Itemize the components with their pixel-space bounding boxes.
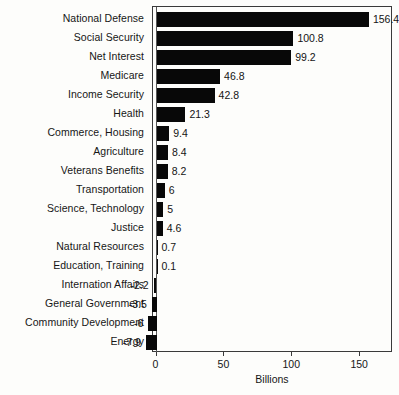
bar-row: 8.4: [153, 143, 391, 162]
bar: [157, 202, 164, 217]
bar: [157, 69, 221, 84]
category-label: Net Interest: [89, 47, 144, 66]
bar-row: 0.7: [153, 238, 391, 257]
bar-row: -6: [153, 314, 391, 333]
category-label: Justice: [111, 218, 144, 237]
category-label: Natural Resources: [56, 237, 144, 256]
category-label: Veterans Benefits: [61, 161, 144, 180]
bar-value-label: 100.8: [297, 31, 323, 46]
category-label: Income Security: [68, 85, 144, 104]
bar-row: 21.3: [153, 105, 391, 124]
bar-row: 100.8: [153, 29, 391, 48]
bar-value-label: 4.6: [167, 221, 182, 236]
bar-value-label: -6: [134, 316, 143, 331]
bar-value-label: 0.1: [161, 259, 176, 274]
bar: [157, 12, 369, 27]
category-label: Social Security: [74, 28, 144, 47]
x-tick-label: 50: [218, 358, 230, 370]
x-tick-label: 0: [153, 358, 159, 370]
bar-value-label: 156.4: [373, 12, 399, 27]
bar-value-label: 0.7: [161, 240, 176, 255]
bar-row: 4.6: [153, 219, 391, 238]
bar-chart: National DefenseSocial SecurityNet Inter…: [0, 0, 399, 395]
bar-value-label: 46.8: [224, 69, 244, 84]
bar: [157, 259, 158, 274]
bar: [157, 221, 163, 236]
x-tick-mark: [156, 352, 157, 356]
bar-value-label: 8.2: [172, 164, 187, 179]
bar-row: 156.4: [153, 10, 391, 29]
bar: [146, 335, 157, 350]
category-label: Education, Training: [53, 256, 144, 275]
bar: [157, 107, 186, 122]
category-label: Community Development: [25, 313, 144, 332]
bar: [148, 316, 156, 331]
bar: [157, 240, 158, 255]
bar-row: 0.1: [153, 257, 391, 276]
bar-value-label: -2.2: [130, 278, 148, 293]
bar-value-label: 21.3: [189, 107, 209, 122]
plot-frame: 156.4100.899.246.842.821.39.48.48.2654.6…: [152, 6, 392, 352]
bar-row: 46.8: [153, 67, 391, 86]
bar-row: 5: [153, 200, 391, 219]
bar-row: 99.2: [153, 48, 391, 67]
bar: [157, 183, 165, 198]
bar-value-label: -7.9: [123, 335, 141, 350]
bar-value-label: -3.5: [129, 297, 147, 312]
bar: [152, 297, 157, 312]
bar-value-label: 9.4: [173, 126, 188, 141]
x-tick-mark: [359, 352, 360, 356]
bar: [157, 88, 215, 103]
category-label: National Defense: [63, 9, 144, 28]
category-label: Medicare: [100, 66, 144, 85]
category-label: Agriculture: [93, 142, 144, 161]
x-tick-mark: [291, 352, 292, 356]
x-tick-mark: [223, 352, 224, 356]
bar: [154, 278, 157, 293]
bar-value-label: 8.4: [172, 145, 187, 160]
bar-row: 6: [153, 181, 391, 200]
bar-value-label: 99.2: [295, 50, 315, 65]
category-label: Transportation: [76, 180, 144, 199]
category-label: Health: [113, 104, 144, 123]
bar-row: -2.2: [153, 276, 391, 295]
x-tick-label: 150: [350, 358, 368, 370]
bar-row: 9.4: [153, 124, 391, 143]
bar: [157, 50, 292, 65]
bar: [157, 126, 170, 141]
bar: [157, 31, 294, 46]
category-label: Science, Technology: [47, 199, 144, 218]
bar: [157, 145, 168, 160]
bar-row: 8.2: [153, 162, 391, 181]
bar-row: -3.5: [153, 295, 391, 314]
category-label-column: National DefenseSocial SecurityNet Inter…: [0, 6, 148, 352]
category-label: Commerce, Housing: [47, 123, 144, 142]
x-axis-title: Billions: [152, 373, 392, 385]
bar-row: 42.8: [153, 86, 391, 105]
bar: [157, 164, 168, 179]
bar-value-label: 5: [167, 202, 173, 217]
x-tick-label: 100: [283, 358, 301, 370]
bar-value-label: 42.8: [219, 88, 239, 103]
scan-caption-artifact: [18, 386, 318, 394]
bar-value-label: 6: [169, 183, 175, 198]
bar-row: -7.9: [153, 333, 391, 352]
